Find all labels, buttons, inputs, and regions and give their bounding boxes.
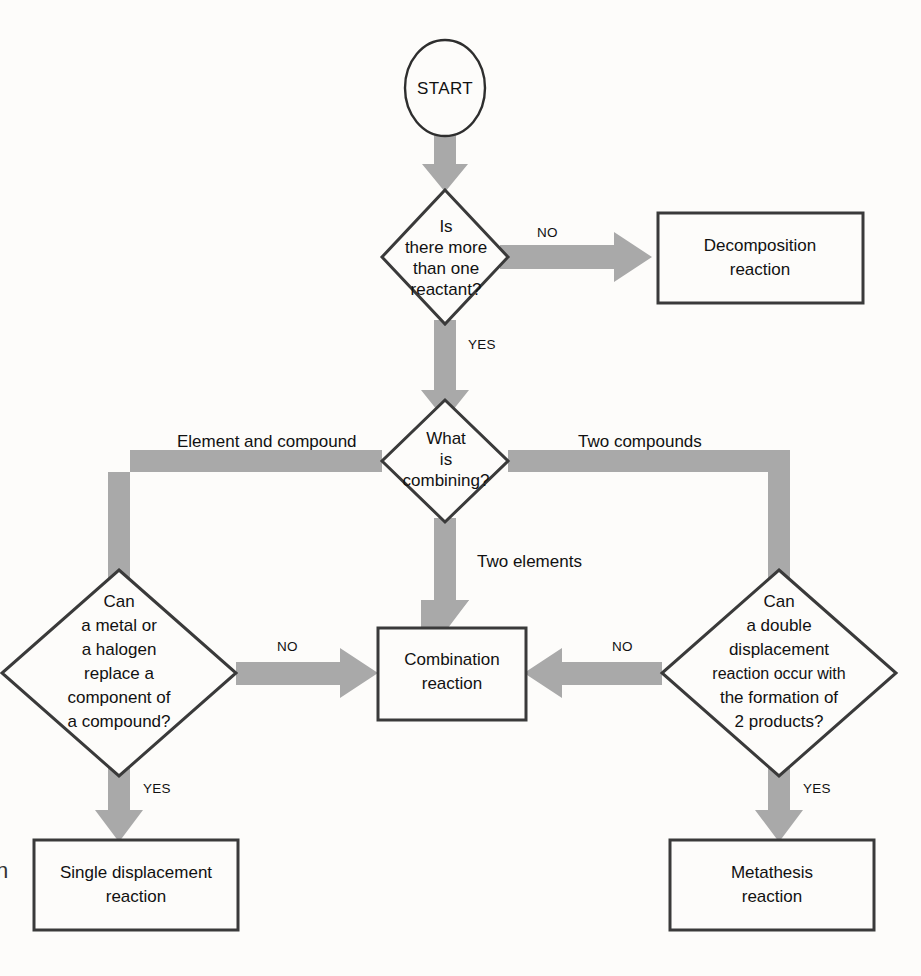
node-decision3-line6: a compound?: [67, 712, 170, 731]
node-metathesis-line2: reaction: [742, 887, 802, 906]
node-combination-line1: Combination: [404, 650, 499, 669]
edge-label-decision1-no: NO: [537, 225, 558, 240]
node-combination-reaction[interactable]: Combination reaction: [378, 628, 526, 720]
arrow-decision4-yes-to-metathesis: [755, 768, 803, 842]
node-decomposition-reaction[interactable]: Decomposition reaction: [658, 213, 863, 303]
edge-label-decision1-yes: YES: [468, 337, 496, 352]
node-start[interactable]: START: [405, 40, 485, 136]
node-decision1-line1: Is: [439, 217, 452, 236]
node-decomposition-line1: Decomposition: [704, 236, 816, 255]
node-decision3-line3: a halogen: [82, 640, 157, 659]
edge-label-element-and-compound: Element and compound: [177, 432, 357, 451]
edge-label-two-elements: Two elements: [477, 552, 582, 571]
node-single-line2: reaction: [106, 887, 166, 906]
flowchart-canvas: START Is there more than one reactant? D…: [0, 0, 921, 976]
node-single-displacement-reaction[interactable]: Single displacement reaction: [34, 840, 238, 930]
node-metathesis-line1: Metathesis: [731, 863, 813, 882]
edge-label-decision3-yes: YES: [143, 781, 171, 796]
node-metathesis-reaction[interactable]: Metathesis reaction: [670, 840, 874, 930]
node-decision-more-than-one-reactant[interactable]: Is there more than one reactant?: [382, 190, 508, 324]
edge-label-decision4-no: NO: [612, 639, 633, 654]
arrow-start-to-decision1: [422, 128, 468, 192]
edge-label-decision3-no: NO: [277, 639, 298, 654]
node-start-label: START: [417, 79, 473, 98]
node-decision3-line1: Can: [103, 592, 134, 611]
node-decision1-line3: than one: [413, 259, 479, 278]
node-decision2-line1: What: [426, 429, 466, 448]
node-decision2-line2: is: [440, 450, 452, 469]
node-combination-line2: reaction: [422, 674, 482, 693]
node-decision-metal-halogen-replace[interactable]: Can a metal or a halogen replace a compo…: [2, 570, 236, 776]
node-decision4-line2: a double: [746, 616, 811, 635]
flowchart-svg: START Is there more than one reactant? D…: [0, 0, 921, 976]
node-decision3-line4: replace a: [84, 664, 154, 683]
edge-label-decision4-yes: YES: [803, 781, 831, 796]
edge-label-two-compounds: Two compounds: [578, 432, 702, 451]
arrow-decision3-no-to-combination: [236, 648, 378, 698]
node-decision4-line5: the formation of: [720, 688, 838, 707]
arrow-decision4-no-to-combination: [524, 648, 662, 698]
node-decision4-line6: 2 products?: [735, 712, 824, 731]
node-decision-what-is-combining[interactable]: What is combining?: [382, 400, 508, 522]
node-decision4-line1: Can: [763, 592, 794, 611]
node-decision4-line3: displacement: [729, 640, 829, 659]
node-decomposition-line2: reaction: [730, 260, 790, 279]
node-decision1-line2: there more: [405, 238, 487, 257]
node-decision-double-displacement[interactable]: Can a double displacement reaction occur…: [662, 570, 896, 776]
node-decision1-line4: reactant?: [411, 280, 482, 299]
arrow-decision3-yes-to-single-displacement: [95, 768, 143, 842]
node-decision2-line3: combining?: [403, 471, 490, 490]
node-decision4-line4: reaction occur with: [712, 665, 845, 682]
node-single-line1: Single displacement: [60, 863, 212, 882]
arrow-decision1-no-to-decomposition: [500, 232, 652, 282]
node-decision3-line2: a metal or: [81, 616, 157, 635]
node-decision3-line5: component of: [67, 688, 170, 707]
margin-glyph: n: [0, 858, 8, 883]
